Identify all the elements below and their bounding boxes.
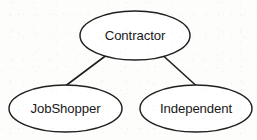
node-contractor-label: Contractor xyxy=(105,28,166,43)
edge-contractor-to-independent xyxy=(163,56,196,86)
diagram-svg: Contractor JobShopper Independent xyxy=(0,0,257,140)
node-independent[interactable]: Independent xyxy=(140,85,252,132)
node-jobshopper-label: JobShopper xyxy=(30,101,101,116)
diagram-canvas: Contractor JobShopper Independent xyxy=(0,0,257,140)
node-jobshopper[interactable]: JobShopper xyxy=(9,85,122,132)
edge-contractor-to-jobshopper xyxy=(66,56,106,86)
node-independent-label: Independent xyxy=(160,101,233,116)
node-contractor[interactable]: Contractor xyxy=(80,11,190,60)
